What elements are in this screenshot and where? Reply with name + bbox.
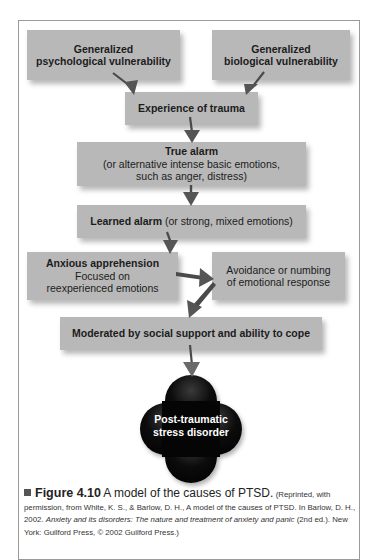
node-biological-vulnerability: Generalized biological vulnerability [212, 30, 350, 80]
node-title: Anxious apprehension [46, 257, 159, 270]
node-line: Generalized [74, 43, 134, 56]
node-line: reexperienced emotions [46, 282, 158, 295]
node-line: such as anger, distress) [136, 170, 247, 183]
node-line: psychological vulnerability [36, 55, 171, 68]
node-moderated-by-support: Moderated by social support and ability … [60, 317, 322, 350]
node-avoidance-numbing: Avoidance or numbing of emotional respon… [212, 252, 345, 300]
figure-caption: Figure 4.10 A model of the causes of PTS… [24, 487, 360, 539]
node-line: of emotional response [227, 276, 330, 289]
node-line: Experience of trauma [138, 102, 245, 115]
node-line: Avoidance or numbing [226, 264, 330, 277]
node-line: Post-traumatic [140, 413, 242, 426]
figure-label: Figure 4.10 [35, 486, 101, 500]
node-anxious-apprehension: Anxious apprehension Focused on reexperi… [27, 252, 178, 300]
node-title: Learned alarm [90, 215, 162, 228]
node-ptsd: Post-traumatic stress disorder [140, 375, 242, 483]
node-line: Focused on [75, 270, 130, 283]
node-psychological-vulnerability: Generalized psychological vulnerability [27, 30, 180, 80]
node-suffix: (or strong, mixed emotions) [162, 215, 293, 228]
node-line: biological vulnerability [224, 55, 338, 68]
node-true-alarm: True alarm (or alternative intense basic… [77, 142, 306, 186]
node-title: True alarm [165, 145, 218, 158]
caption-book-title: Anxiety and its disorders: The nature an… [46, 515, 295, 524]
node-learned-alarm: Learned alarm (or strong, mixed emotions… [77, 205, 306, 238]
node-line: stress disorder [140, 426, 242, 439]
ptsd-label: Post-traumatic stress disorder [140, 413, 242, 439]
node-experience-of-trauma: Experience of trauma [125, 92, 258, 125]
figure-title: A model of the causes of PTSD. [103, 486, 273, 500]
node-line: Moderated by social support and ability … [72, 327, 310, 340]
caption-square-icon [24, 489, 31, 496]
node-line: Generalized [251, 43, 311, 56]
node-line: (or alternative intense basic emotions, [103, 158, 280, 171]
